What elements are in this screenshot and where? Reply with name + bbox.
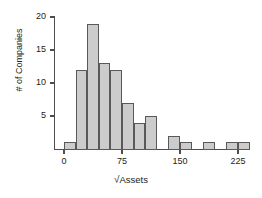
x-tick-label: 225 xyxy=(223,156,253,166)
y-tick-mark xyxy=(50,115,55,116)
y-tick-label: 15 xyxy=(28,44,46,54)
x-tick-mark xyxy=(237,149,238,154)
histogram-bar xyxy=(226,142,238,149)
histogram-bar xyxy=(145,116,157,150)
y-tick-label: 10 xyxy=(28,77,46,87)
histogram-bar xyxy=(180,142,192,149)
x-axis-label-text: Assets xyxy=(119,174,148,185)
y-tick-label: 20 xyxy=(28,11,46,21)
histogram-figure: # of Companies 5101520 075150225 √Assets xyxy=(0,0,262,198)
x-tick-label: 150 xyxy=(165,156,195,166)
histogram-bar xyxy=(76,70,88,150)
histogram-bar xyxy=(134,123,146,150)
histogram-bar xyxy=(122,103,134,150)
x-tick-mark xyxy=(121,149,122,154)
histogram-bar xyxy=(203,142,215,149)
y-tick-mark xyxy=(50,16,55,17)
x-axis-label: √Assets xyxy=(0,174,262,185)
y-tick-mark xyxy=(50,82,55,83)
histogram-bar xyxy=(238,142,250,149)
y-tick-label: 5 xyxy=(28,110,46,120)
x-tick-label: 0 xyxy=(49,156,79,166)
x-tick-mark xyxy=(179,149,180,154)
histogram-bar xyxy=(168,136,180,150)
y-tick-mark xyxy=(50,49,55,50)
plot-area: 5101520 075150225 xyxy=(0,0,262,198)
x-tick-label: 75 xyxy=(107,156,137,166)
histogram-bar xyxy=(87,24,99,150)
histogram-bar xyxy=(110,70,122,150)
histogram-bar xyxy=(64,142,76,149)
histogram-bar xyxy=(99,63,111,149)
x-tick-mark xyxy=(63,149,64,154)
